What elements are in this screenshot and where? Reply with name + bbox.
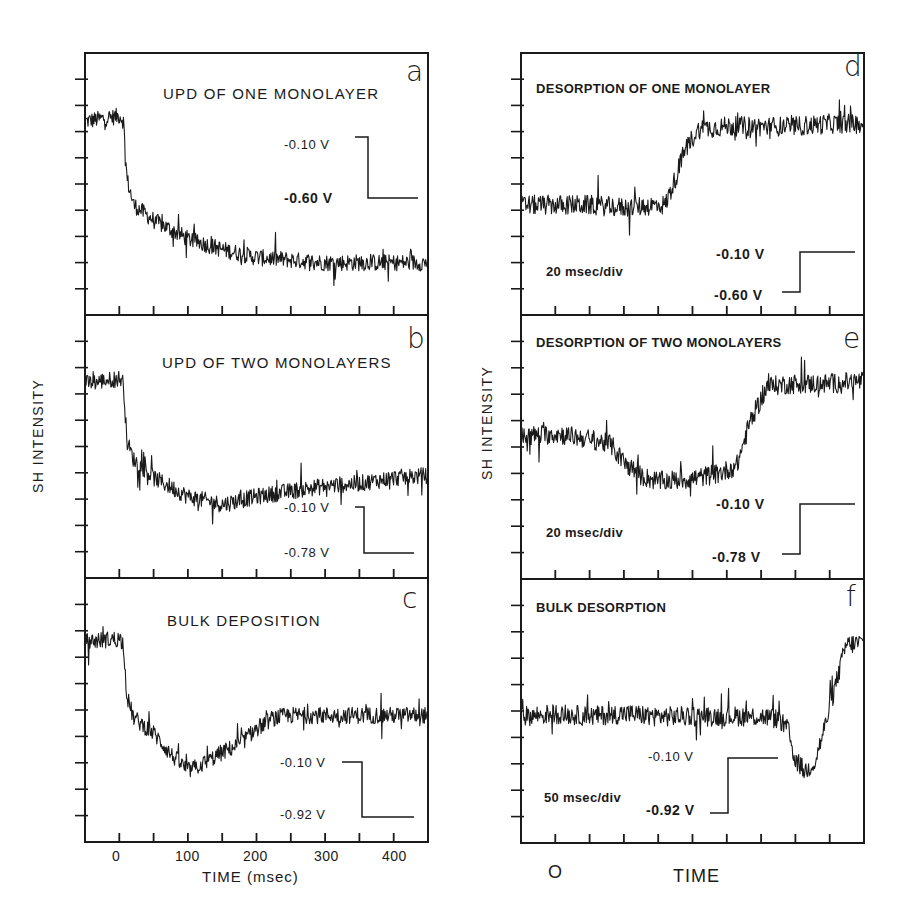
x-tick-label-200: 200 <box>243 848 268 864</box>
x-tick-label-0: 0 <box>112 848 120 864</box>
panel-e-letter: e <box>843 322 860 355</box>
panel-d-letter: d <box>844 50 862 83</box>
panel-a-voltage-low: -0.60 V <box>284 190 333 206</box>
panel-a-letter: a <box>406 55 423 88</box>
potential-step-d <box>782 252 855 292</box>
panel-c-voltage-low: -0.92 V <box>280 807 325 822</box>
sh-trace-d <box>522 100 863 235</box>
sh-trace-b <box>86 371 427 524</box>
sh-trace-a <box>86 108 427 285</box>
panel-f-letter: f <box>846 580 856 613</box>
panel-e-voltage-low: -0.78 V <box>712 549 761 565</box>
sh-trace-e <box>522 357 863 496</box>
panel-b-voltage-high: -0.10 V <box>284 500 329 515</box>
panel-d-voltage-low: -0.60 V <box>714 287 763 303</box>
x-tick-label-400: 400 <box>382 848 407 864</box>
potential-step-f <box>710 758 778 813</box>
panel-c-voltage-high: -0.10 V <box>280 755 325 770</box>
panel-c-title: BULK DEPOSITION <box>167 612 321 629</box>
figure-canvas <box>0 0 904 916</box>
panel-f-title: BULK DESORPTION <box>536 600 666 615</box>
panel-b-voltage-low: -0.78 V <box>284 545 329 560</box>
panel-b-title: UPD OF TWO MONOLAYERS <box>162 354 392 371</box>
right-x-zero-label: O <box>548 862 563 883</box>
left-y-axis-label: SH INTENSITY <box>30 379 46 493</box>
sh-trace-c <box>86 627 427 777</box>
panel-c-letter: c <box>402 582 417 615</box>
panel-a-voltage-high: -0.10 V <box>284 137 329 152</box>
panel-e-voltage-high: -0.10 V <box>716 496 765 512</box>
panel-f-voltage-high: -0.10 V <box>648 749 693 764</box>
left-x-axis-label: TIME (msec) <box>202 868 299 885</box>
axes-frame <box>85 53 428 842</box>
panel-d-time-scale: 20 msec/div <box>546 264 623 279</box>
potential-step-c <box>342 762 414 817</box>
panel-b-letter: b <box>407 322 425 355</box>
axes-frame <box>521 53 864 843</box>
panel-a-title: UPD OF ONE MONOLAYER <box>163 85 379 102</box>
panel-f-time-scale: 50 msec/div <box>544 790 621 805</box>
panel-e-time-scale: 20 msec/div <box>546 525 623 540</box>
right-y-axis-label: SH INTENSITY <box>479 366 495 480</box>
panel-e-title: DESORPTION OF TWO MONOLAYERS <box>536 335 782 350</box>
panel-f-voltage-low: -0.92 V <box>646 802 695 818</box>
panel-d-voltage-high: -0.10 V <box>716 246 765 262</box>
right-x-axis-label: TIME <box>673 866 720 887</box>
x-tick-label-100: 100 <box>175 848 200 864</box>
x-tick-label-300: 300 <box>314 848 339 864</box>
potential-step-e <box>782 504 855 554</box>
potential-step-a <box>355 137 418 198</box>
panel-d-title: DESORPTION OF ONE MONOLAYER <box>536 81 770 96</box>
potential-step-b <box>355 507 414 553</box>
